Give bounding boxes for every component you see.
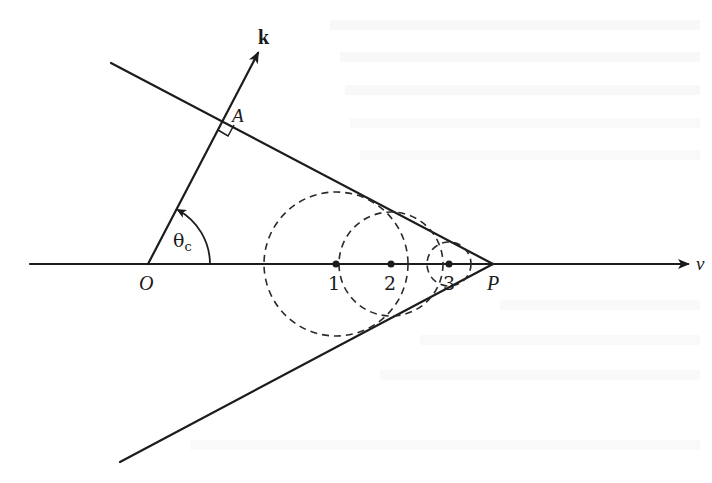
label-P: P [486,272,499,294]
label-O: O [139,272,153,294]
label-point-3: 3 [443,272,455,294]
emission-point-2 [388,261,395,268]
bleed-through-text [190,20,700,450]
k-vector-axis [148,53,258,264]
label-theta: θc [173,229,192,254]
label-theta-symbol: θ [173,229,184,251]
label-v: v [696,253,705,274]
label-A: A [230,105,244,126]
emission-point-1 [333,261,340,268]
cherenkov-cone-diagram: k A θc O 1 2 3 P v [0,0,712,483]
label-theta-subscript: c [184,239,191,254]
label-point-1: 1 [328,272,340,294]
label-point-2: 2 [384,272,396,294]
label-k: k [258,26,270,48]
cone-lower-edge [120,264,493,462]
emission-point-3 [446,261,453,268]
